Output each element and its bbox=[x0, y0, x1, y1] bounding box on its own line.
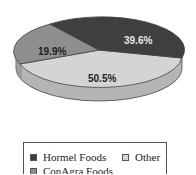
swatch-conagra bbox=[30, 168, 37, 175]
legend-item-hormel: Hormel Foods bbox=[30, 151, 106, 163]
label-other: 50.5% bbox=[88, 73, 116, 84]
legend-label-conagra: ConAgra Foods bbox=[43, 165, 113, 174]
legend: Hormel Foods Other ConAgra Foods bbox=[23, 142, 167, 174]
legend-label-other: Other bbox=[135, 151, 160, 163]
legend-item-conagra: ConAgra Foods bbox=[30, 165, 113, 174]
legend-label-hormel: Hormel Foods bbox=[43, 151, 106, 163]
swatch-hormel bbox=[30, 154, 37, 161]
swatch-other bbox=[122, 154, 129, 161]
label-hormel: 39.6% bbox=[124, 35, 152, 46]
pie-chart: 39.6% 19.9% 50.5% bbox=[0, 0, 196, 125]
legend-item-other: Other bbox=[122, 151, 160, 163]
label-conagra: 19.9% bbox=[38, 46, 66, 57]
